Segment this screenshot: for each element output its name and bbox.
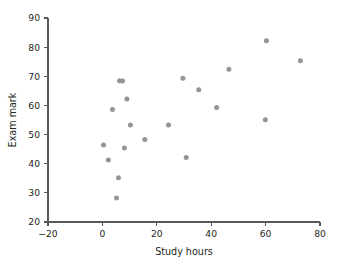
x-tick-label: 60 xyxy=(260,228,272,239)
data-point xyxy=(180,76,185,81)
data-point xyxy=(263,117,268,122)
y-tick-label: 70 xyxy=(28,71,40,82)
x-axis-title: Study hours xyxy=(155,246,213,257)
data-point xyxy=(166,122,171,127)
x-tick-label: 0 xyxy=(99,228,105,239)
data-points xyxy=(101,38,303,200)
data-point xyxy=(264,38,269,43)
y-tick-label: 30 xyxy=(28,187,40,198)
data-point xyxy=(196,87,201,92)
data-point xyxy=(122,145,127,150)
data-point xyxy=(106,157,111,162)
x-tick-label: 80 xyxy=(314,228,326,239)
data-point xyxy=(110,107,115,112)
y-tick-label: 80 xyxy=(28,42,40,53)
data-point xyxy=(120,78,125,83)
y-tick-label: 60 xyxy=(28,100,40,111)
data-point xyxy=(101,143,106,148)
x-tick-label: 40 xyxy=(205,228,217,239)
x-tick-label: −20 xyxy=(38,228,58,239)
x-axis-ticks: −20020406080 xyxy=(38,222,326,239)
data-point xyxy=(226,67,231,72)
scatter-chart: 2030405060708090 −20020406080 Study hour… xyxy=(0,0,341,267)
data-point xyxy=(116,175,121,180)
data-point xyxy=(142,137,147,142)
data-point xyxy=(114,196,119,201)
y-axis-title: Exam mark xyxy=(7,92,18,147)
y-tick-label: 20 xyxy=(28,216,40,227)
data-point xyxy=(298,58,303,63)
x-tick-label: 20 xyxy=(151,228,163,239)
y-axis-ticks: 2030405060708090 xyxy=(28,12,48,227)
y-tick-label: 90 xyxy=(28,12,40,23)
data-point xyxy=(214,105,219,110)
y-tick-label: 40 xyxy=(28,158,40,169)
data-point xyxy=(124,97,129,102)
chart-canvas: 2030405060708090 −20020406080 Study hour… xyxy=(0,0,341,267)
data-point xyxy=(128,122,133,127)
y-tick-label: 50 xyxy=(28,129,40,140)
data-point xyxy=(184,155,189,160)
